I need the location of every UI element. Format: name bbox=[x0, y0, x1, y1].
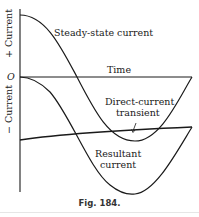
negative-current-label: − Current bbox=[4, 85, 14, 134]
dc-transient-label-line2: transient bbox=[116, 108, 160, 118]
positive-current-label: + Current bbox=[4, 9, 14, 58]
time-label: Time bbox=[107, 65, 131, 75]
resultant-label-line2: current bbox=[100, 160, 136, 170]
origin-label: O bbox=[7, 72, 15, 82]
resultant-current-curve bbox=[20, 77, 192, 194]
dc-transient-label-line1: Direct-current bbox=[105, 97, 174, 107]
dc-transient-curve bbox=[20, 127, 192, 140]
figure-caption: Fig. 184. bbox=[0, 198, 199, 208]
steady-state-label: Steady-state current bbox=[54, 28, 153, 38]
divider bbox=[0, 212, 199, 213]
resultant-label-line1: Resultant bbox=[95, 149, 141, 159]
